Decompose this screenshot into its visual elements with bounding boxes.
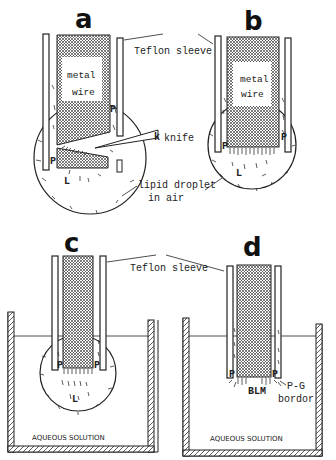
metal-wire-c [63, 256, 93, 368]
knife-label: knife [164, 133, 194, 144]
mark-p-left-b: P [222, 141, 228, 152]
container-floor-c [8, 446, 154, 452]
aqueous-solution-label-c: AQUEOUS SOLUTION [32, 434, 105, 442]
container-wall-left-c [8, 312, 14, 452]
teflon-sleeve-left-b [215, 36, 221, 152]
container-wall-right-d [316, 324, 322, 456]
knife-mark: k [154, 132, 160, 143]
pg-border-label-line1: P-G [287, 381, 305, 392]
droplet-label-line2: in air [148, 193, 184, 204]
container-wall-right-c [148, 320, 154, 452]
mark-p-right-a: P [110, 104, 116, 115]
panel-label-c: c [64, 228, 79, 258]
mark-p-left-a: P [50, 156, 56, 167]
panel-c: c P P L AQUEOUS SOLUTION [8, 228, 158, 452]
mark-l-a: L [64, 176, 70, 187]
pg-border-label-line2: bordor [278, 394, 314, 405]
teflon-sleeve-left-d [227, 266, 233, 378]
mark-p-right-d: P [272, 369, 278, 380]
teflon-sleeve-label-bottom: Teflon sleeve [130, 263, 208, 274]
teflon-sleeve-right-c [100, 256, 106, 370]
membrane-formation-diagram: a metal wire k knife P P L Teflon sleeve [0, 0, 336, 460]
aqueous-solution-label-d: AQUEOUS SOLUTION [210, 435, 283, 443]
teflon-sleeve-left-a [43, 34, 49, 170]
mark-blm-d: BLM [248, 386, 266, 397]
wire-label-metal-a: metal [67, 70, 96, 81]
wire-label-wire-b: wire [241, 89, 264, 100]
teflon-annotation-bottom: Teflon sleeve [107, 255, 224, 274]
mark-p-left-c: P [57, 360, 63, 371]
wire-label-wire-a: wire [72, 87, 95, 98]
container-wall-left-d [183, 318, 189, 456]
wire-label-metal-b: metal [240, 74, 269, 85]
panel-b: b metal wire P P L [208, 6, 296, 191]
teflon-sleeve-right-a [117, 38, 123, 136]
panel-label-b: b [244, 6, 263, 36]
teflon-sleeve-label-top: Teflon sleeve [134, 46, 212, 57]
droplet-annotation: lipid droplet in air [122, 178, 222, 204]
droplet-label-line1: lipid droplet [138, 180, 216, 191]
mark-l-b: L [236, 168, 242, 179]
panel-label-d: d [243, 232, 262, 262]
teflon-sleeve-left-c [52, 256, 58, 370]
container-floor-d [183, 450, 322, 456]
mark-p-right-c: P [94, 360, 100, 371]
metal-wire-d [237, 265, 271, 377]
teflon-annotation-top: Teflon sleeve [124, 34, 213, 57]
mark-p-right-b: P [281, 132, 287, 143]
mark-l-c: L [72, 394, 78, 405]
panel-label-a: a [75, 4, 93, 34]
mark-p-left-d: P [229, 369, 235, 380]
